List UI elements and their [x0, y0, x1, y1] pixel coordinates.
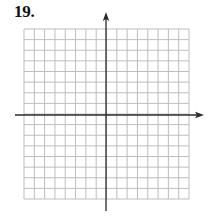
axes: [15, 12, 204, 211]
coordinate-plane: [0, 0, 213, 220]
